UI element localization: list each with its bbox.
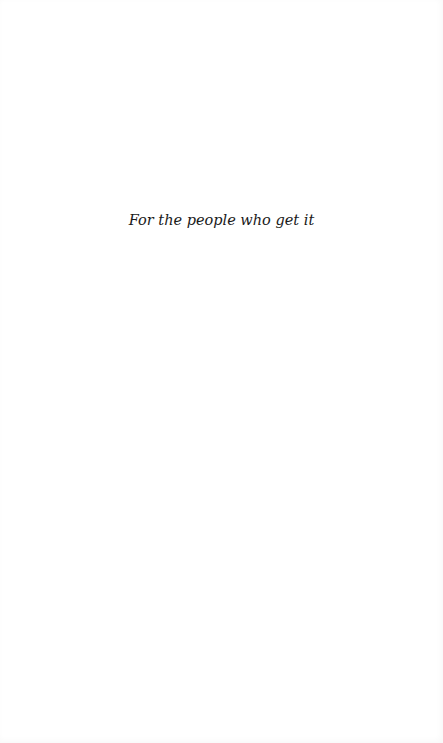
dedication-text: For the people who get it xyxy=(0,208,443,232)
book-page: For the people who get it xyxy=(0,0,443,743)
